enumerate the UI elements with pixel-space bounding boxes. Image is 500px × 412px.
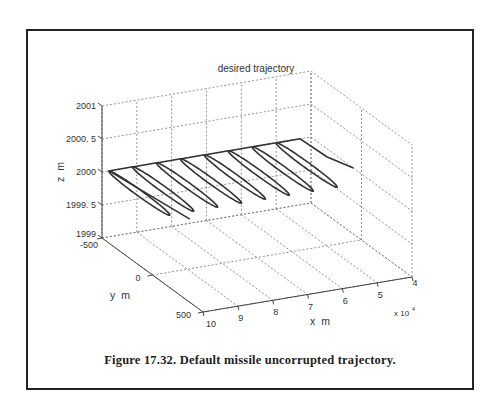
z-tick-label: 1999 (76, 229, 96, 239)
x-exponent: 4 (412, 306, 415, 312)
x-exponent-label: x 10 (394, 309, 410, 318)
chart-title: desired trajectory (218, 63, 295, 74)
trajectory-line (109, 139, 354, 215)
y-axis-label: y m (110, 289, 130, 301)
x-tick (273, 300, 274, 304)
x-tick-label: 4 (412, 278, 417, 288)
z-tick-label: 1999. 5 (66, 200, 96, 210)
x-tick-label: 7 (308, 302, 313, 312)
z-tick (98, 235, 102, 238)
grid-line (172, 226, 273, 300)
grid-line (137, 232, 238, 306)
x-tick-label: 6 (343, 296, 348, 306)
z-tick (98, 136, 102, 139)
z-tick (98, 169, 102, 172)
x-tick (203, 312, 204, 316)
x-tick-label: 8 (273, 307, 278, 317)
y-tick (97, 238, 102, 239)
x-tick-label: 9 (238, 313, 243, 323)
y-tick-label: 500 (176, 310, 191, 320)
z-tick (98, 103, 102, 106)
y-tick (198, 312, 203, 313)
z-tick (98, 202, 102, 205)
figure-caption: Figure 17.32. Default missile uncorrupte… (0, 353, 500, 368)
x-tick (308, 295, 309, 299)
y-tick (148, 275, 153, 276)
x-axis-label: x m (310, 315, 330, 327)
x-tick-label: 5 (378, 290, 383, 300)
z-tick-label: 2000. 5 (66, 134, 96, 144)
x-tick (342, 289, 343, 293)
grid-line (102, 104, 311, 139)
3d-trajectory-plot: 20012000. 520001999. 51999-5000500109876… (0, 0, 500, 412)
x-tick-label: 10 (206, 319, 216, 329)
z-tick-label: 2000 (76, 167, 96, 177)
x-tick (377, 283, 378, 287)
x-tick (238, 306, 239, 310)
trajectory-tail (109, 171, 190, 219)
z-axis-label: z m (54, 162, 66, 182)
y-tick-label: 0 (135, 273, 140, 283)
y-tick-label: -500 (80, 240, 98, 250)
grid-line (102, 71, 311, 106)
grid-line (153, 240, 362, 275)
z-tick-label: 2001 (76, 101, 96, 111)
